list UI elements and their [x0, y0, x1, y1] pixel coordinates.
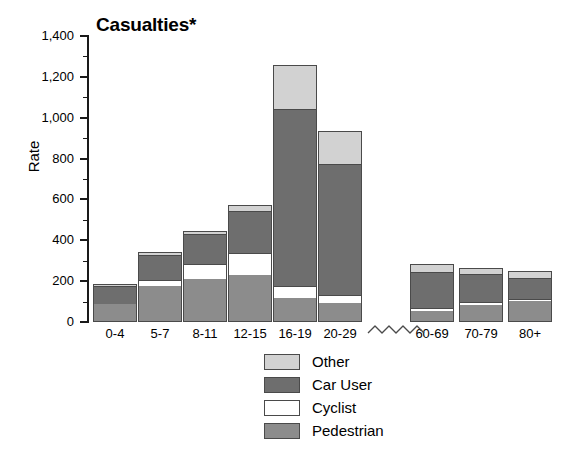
bar-stack[interactable] [93, 284, 137, 322]
bar-stack[interactable] [410, 264, 454, 322]
chart-legend: OtherCar UserCyclistPedestrian [264, 350, 384, 442]
bar-segment[interactable] [410, 272, 454, 308]
chart-title: Casualties* [96, 14, 196, 36]
bar-segment[interactable] [410, 311, 454, 322]
y-axis-tick-label: 800 [12, 152, 74, 165]
bar-stack[interactable] [273, 65, 317, 322]
axis-break-zigzag-icon [366, 322, 426, 338]
bar-segment[interactable] [459, 305, 503, 322]
y-axis-tick-major [80, 280, 88, 282]
y-axis-tick-major [80, 321, 88, 323]
legend-swatch [264, 423, 300, 439]
y-axis-tick-label: 200 [12, 274, 74, 287]
bar-segment[interactable] [273, 286, 317, 297]
legend-swatch [264, 377, 300, 393]
legend-item[interactable]: Pedestrian [264, 419, 384, 442]
y-axis-tick-major [80, 239, 88, 241]
bar-stack[interactable] [318, 131, 362, 322]
y-axis-tick-major [80, 117, 88, 119]
bar-segment[interactable] [228, 211, 272, 253]
y-axis-tick-label: 1,400 [12, 29, 74, 42]
y-axis-tick-major [80, 198, 88, 200]
bar-segment[interactable] [183, 264, 227, 279]
legend-item[interactable]: Cyclist [264, 396, 384, 419]
y-axis-tick-major [80, 76, 88, 78]
bar-segment[interactable] [228, 275, 272, 322]
bar-segment[interactable] [93, 304, 137, 322]
x-axis-tick-label: 20-29 [308, 326, 372, 341]
bar-segment[interactable] [138, 255, 182, 281]
bar-segment[interactable] [318, 164, 362, 296]
legend-label: Other [312, 354, 350, 369]
bar-segment[interactable] [508, 271, 552, 278]
y-axis-tick-label: 1,000 [12, 111, 74, 124]
bar-segment[interactable] [273, 298, 317, 323]
bar-stack[interactable] [183, 231, 227, 322]
y-axis-tick-label: 1,200 [12, 70, 74, 83]
y-axis-tick-major [80, 35, 88, 37]
bar-segment[interactable] [318, 303, 362, 322]
y-axis-tick-major [80, 158, 88, 160]
bar-segment[interactable] [318, 295, 362, 302]
bar-stack[interactable] [459, 268, 503, 322]
bar-segment[interactable] [183, 234, 227, 264]
legend-swatch [264, 400, 300, 416]
legend-label: Car User [312, 377, 372, 392]
legend-label: Pedestrian [312, 423, 384, 438]
bar-segment[interactable] [410, 264, 454, 272]
bar-stack[interactable] [138, 252, 182, 322]
bar-segment[interactable] [93, 286, 137, 303]
bar-segment[interactable] [318, 131, 362, 164]
legend-swatch [264, 354, 300, 370]
legend-item[interactable]: Car User [264, 373, 384, 396]
bar-segment[interactable] [183, 279, 227, 322]
y-axis-tick-label: 400 [12, 233, 74, 246]
legend-label: Cyclist [312, 400, 356, 415]
y-axis-tick-label: 600 [12, 192, 74, 205]
casualties-stacked-bar-chart: Casualties* Rate 02004006008001,0001,200… [0, 0, 577, 461]
bar-stack[interactable] [508, 271, 552, 322]
bar-segment[interactable] [228, 253, 272, 275]
bar-segment[interactable] [273, 65, 317, 109]
bar-stack[interactable] [228, 205, 272, 322]
bar-segment[interactable] [273, 109, 317, 287]
bar-segment[interactable] [459, 274, 503, 302]
x-axis-tick-label: 80+ [498, 326, 562, 341]
plot-area [88, 36, 568, 322]
bar-segment[interactable] [508, 301, 552, 322]
bar-segment[interactable] [508, 278, 552, 298]
y-axis-tick-label: 0 [12, 315, 74, 328]
legend-item[interactable]: Other [264, 350, 384, 373]
bar-segment[interactable] [138, 286, 182, 322]
